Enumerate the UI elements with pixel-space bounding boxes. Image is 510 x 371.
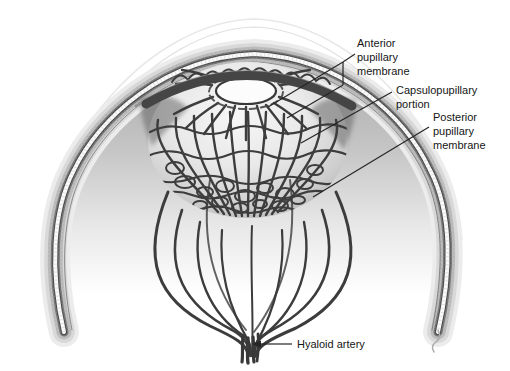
label-line: membrane (433, 139, 486, 151)
leader-anterior-connector (343, 54, 355, 62)
label-line: pupillary (357, 51, 398, 63)
label-line: Anterior (357, 37, 396, 49)
label-line: Capsulopupillary (396, 84, 478, 96)
label-hyaloid-artery: Hyaloid artery (297, 338, 365, 350)
label-line: pupillary (433, 125, 474, 137)
eye-diagram: Anterior pupillary membrane Capsulopupil… (0, 0, 510, 371)
figure-canvas: Anterior pupillary membrane Capsulopupil… (0, 0, 510, 371)
label-posterior-pupillary-membrane: Posterior pupillary membrane (433, 111, 486, 151)
label-anterior-pupillary-membrane: Anterior pupillary membrane (357, 37, 410, 77)
label-capsulopupillary-portion: Capsulopupillary portion (396, 84, 478, 110)
label-line: portion (396, 98, 430, 110)
label-line: membrane (357, 65, 410, 77)
label-line: Posterior (433, 111, 477, 123)
pupil-opening (216, 78, 276, 104)
